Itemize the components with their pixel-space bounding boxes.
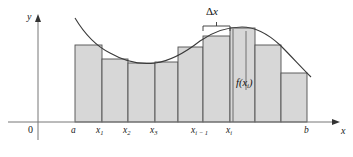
- tick-label-b: b: [304, 126, 309, 136]
- tick-label-xi-sub: i: [230, 129, 232, 136]
- riemann-bar: [178, 47, 203, 122]
- tick-label-x2-sub: 2: [127, 129, 130, 136]
- tick-label-b-text: b: [304, 125, 309, 135]
- y-axis: [35, 14, 41, 140]
- tick-label-xi-minus-1-sub: i − 1: [195, 129, 208, 136]
- riemann-bar: [255, 45, 281, 122]
- riemann-sum-figure: y x 0 a x1 x2 x3 xi − 1 xi b Δx f(xi): [0, 0, 353, 157]
- tick-label-x2: x2: [123, 126, 130, 136]
- tick-label-x3: x3: [150, 126, 157, 136]
- delta-x-brace: [203, 22, 230, 31]
- riemann-sum-plot: [0, 0, 353, 157]
- riemann-bar: [281, 73, 307, 122]
- x-axis-label: x: [341, 126, 345, 136]
- delta-x-label: Δx: [206, 6, 218, 17]
- fx-i-label-suffix: ): [249, 77, 253, 88]
- tick-label-a: a: [71, 126, 76, 136]
- riemann-bar-highlighted: [230, 28, 255, 122]
- fx-i-label: f(xi): [236, 78, 253, 89]
- riemann-bar: [75, 45, 102, 122]
- fx-i-label-prefix: f(x: [236, 77, 247, 88]
- riemann-bar: [155, 62, 178, 122]
- delta-x-variable: x: [213, 5, 218, 17]
- riemann-bars: [75, 28, 307, 122]
- tick-label-x3-sub: 3: [154, 129, 157, 136]
- tick-label-x1-sub: 1: [100, 129, 103, 136]
- fx-i-label-sub: i: [247, 82, 249, 90]
- riemann-bar: [128, 63, 155, 122]
- tick-label-xi: xi: [226, 126, 232, 136]
- tick-label-xi-minus-1: xi − 1: [191, 126, 208, 136]
- riemann-bar: [102, 59, 128, 122]
- tick-label-x1: x1: [96, 126, 103, 136]
- origin-label: 0: [28, 125, 33, 135]
- tick-label-a-text: a: [71, 125, 76, 135]
- riemann-bar: [203, 36, 230, 122]
- y-axis-label: y: [27, 12, 31, 22]
